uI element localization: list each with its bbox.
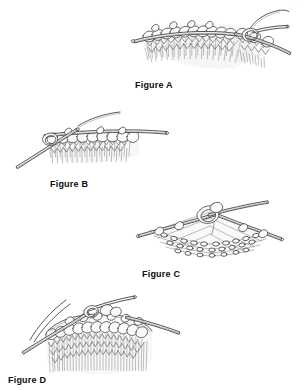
- scan-artifact: [290, 2, 300, 12]
- figure-a-caption: Figure A: [135, 80, 173, 91]
- figure-d-caption: Figure D: [8, 375, 46, 386]
- knitting-illustration-b: [14, 110, 174, 178]
- knitting-illustration-a: [131, 8, 296, 78]
- figure-b-caption: Figure B: [50, 179, 88, 190]
- knitting-illustration-c: [130, 200, 290, 268]
- knitting-illustration-d: [22, 294, 182, 376]
- figure-c-caption: Figure C: [142, 269, 180, 280]
- page-canvas: Figure A: [0, 0, 304, 390]
